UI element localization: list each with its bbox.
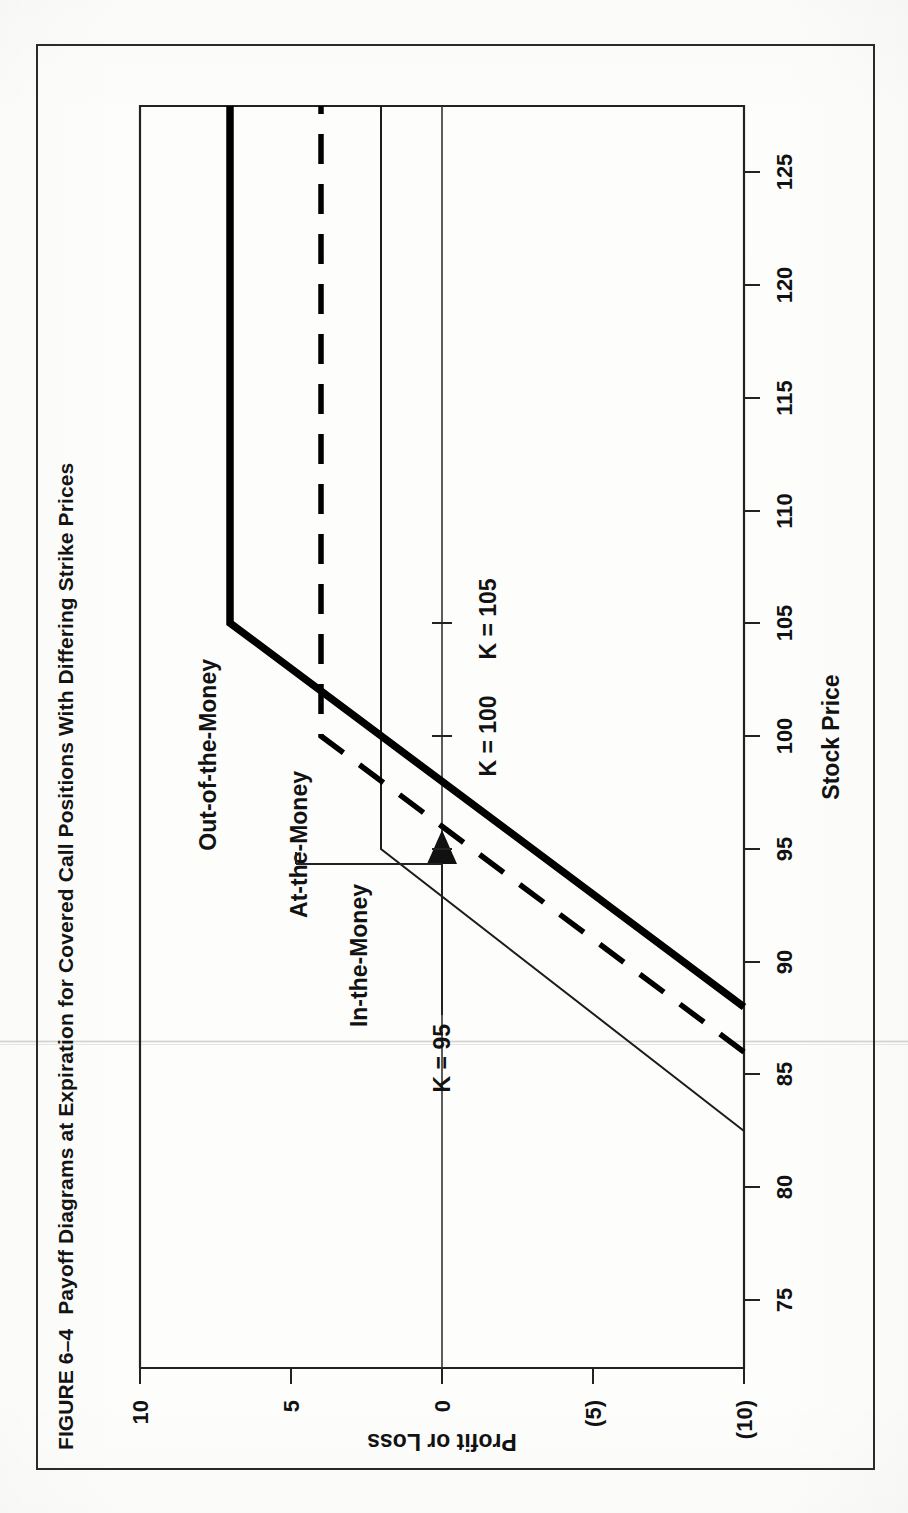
x-tick-label-75: 75: [772, 1288, 797, 1312]
y-tick-label-neg10: (10): [732, 1400, 757, 1439]
series-line-in-the-money: [381, 106, 744, 1131]
series-label-out-of-the-money: Out-of-the-Money: [195, 659, 221, 851]
x-tick-label-110: 110: [772, 493, 797, 529]
x-tick-label-120: 120: [772, 267, 797, 304]
x-tick-label-90: 90: [772, 950, 797, 974]
y-axis-ticks: [140, 1368, 744, 1384]
x-tick-label-100: 100: [772, 718, 797, 755]
series-line-at-the-money: [321, 106, 744, 1052]
y-axis-title: Profit or Loss: [367, 1429, 517, 1455]
annotation-label-k95: K = 95: [429, 1024, 455, 1093]
x-tick-label-85: 85: [772, 1062, 797, 1086]
y-tick-label-10: 10: [128, 1400, 153, 1424]
rotated-figure-stage: FIGURE 6–4Payoff Diagrams at Expiration …: [44, 44, 850, 1464]
series-label-in-the-money: In-the-Money: [346, 884, 372, 1027]
chart-svg: 75 80 85 90 95 100 105 110 115 120 125 S…: [44, 44, 850, 1464]
x-axis-tick-labels: 75 80 85 90 95 100 105 110 115 120 125: [772, 154, 797, 1313]
x-tick-label-80: 80: [772, 1175, 797, 1199]
x-tick-label-95: 95: [772, 837, 797, 861]
series-label-at-the-money: At-the-Money: [286, 771, 312, 918]
x-tick-label-125: 125: [772, 154, 797, 191]
annotation-label-k100: K = 100: [475, 695, 501, 776]
y-tick-label-5: 5: [279, 1400, 304, 1412]
x-axis-title: Stock Price: [818, 674, 844, 799]
annotation-k95-group: K = 95: [427, 830, 457, 1092]
y-tick-label-0: 0: [430, 1400, 455, 1412]
x-tick-label-115: 115: [772, 380, 797, 416]
plot-area: 75 80 85 90 95 100 105 110 115 120 125 S…: [44, 44, 850, 1464]
x-axis-ticks: [744, 172, 760, 1300]
y-tick-label-neg5: (5): [581, 1400, 606, 1427]
x-tick-label-105: 105: [772, 605, 797, 642]
annotation-label-k105: K = 105: [475, 578, 501, 659]
